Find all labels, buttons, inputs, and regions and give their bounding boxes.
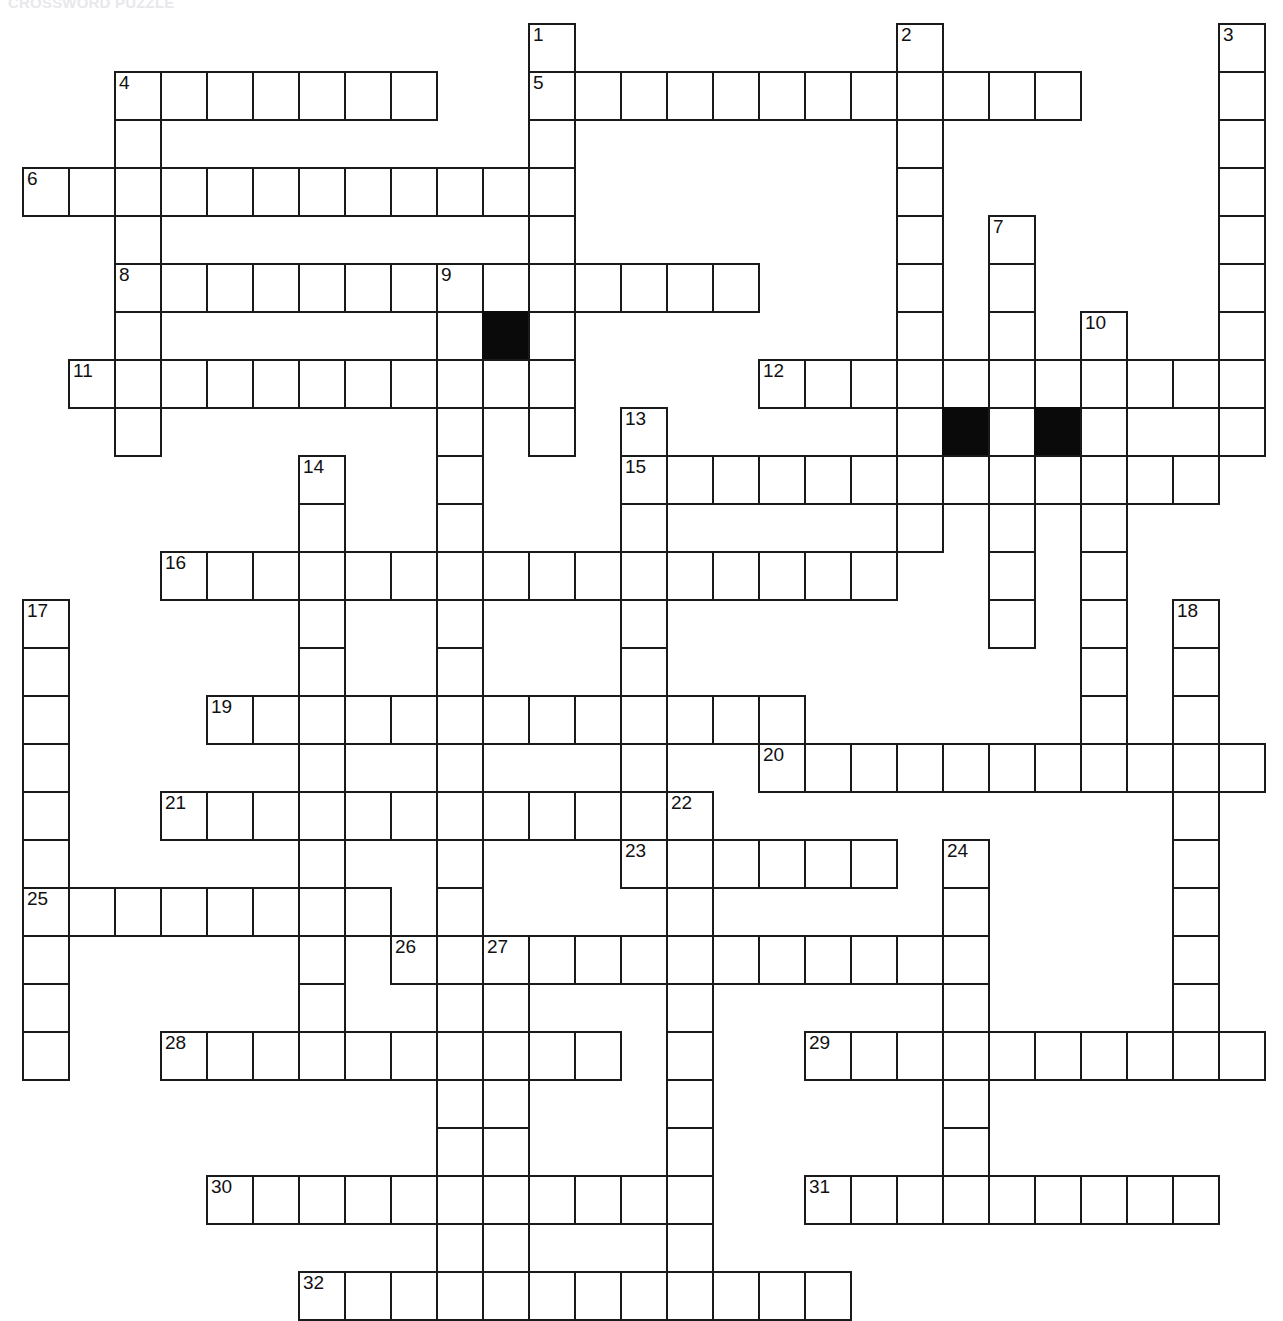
crossword-cell[interactable]: [252, 695, 300, 745]
crossword-cell[interactable]: 9: [436, 263, 484, 313]
crossword-cell[interactable]: [482, 1127, 530, 1177]
crossword-cell[interactable]: [988, 1031, 1036, 1081]
crossword-cell[interactable]: 30: [206, 1175, 254, 1225]
crossword-cell[interactable]: [1172, 743, 1220, 793]
crossword-cell[interactable]: [298, 1031, 346, 1081]
crossword-cell[interactable]: [252, 791, 300, 841]
crossword-cell[interactable]: [666, 1079, 714, 1129]
crossword-cell[interactable]: [1172, 935, 1220, 985]
crossword-cell[interactable]: [114, 887, 162, 937]
crossword-cell[interactable]: [298, 983, 346, 1033]
crossword-cell[interactable]: [344, 71, 392, 121]
crossword-cell[interactable]: [620, 695, 668, 745]
crossword-cell[interactable]: [896, 935, 944, 985]
crossword-cell[interactable]: [298, 695, 346, 745]
crossword-cell[interactable]: [482, 1223, 530, 1273]
crossword-cell[interactable]: [22, 983, 70, 1033]
crossword-cell[interactable]: [804, 71, 852, 121]
crossword-cell[interactable]: 29: [804, 1031, 852, 1081]
crossword-cell[interactable]: [666, 1175, 714, 1225]
crossword-cell[interactable]: [850, 455, 898, 505]
crossword-cell[interactable]: [114, 215, 162, 265]
crossword-cell[interactable]: [436, 743, 484, 793]
crossword-cell[interactable]: [436, 503, 484, 553]
crossword-cell[interactable]: [804, 935, 852, 985]
crossword-cell[interactable]: [1218, 359, 1266, 409]
crossword-cell[interactable]: [620, 743, 668, 793]
crossword-cell[interactable]: [252, 263, 300, 313]
crossword-cell[interactable]: [528, 1175, 576, 1225]
crossword-cell[interactable]: [390, 71, 438, 121]
crossword-cell[interactable]: [712, 455, 760, 505]
crossword-cell[interactable]: 19: [206, 695, 254, 745]
crossword-cell[interactable]: 17: [22, 599, 70, 649]
crossword-cell[interactable]: [1172, 983, 1220, 1033]
crossword-cell[interactable]: [850, 935, 898, 985]
crossword-cell[interactable]: [206, 71, 254, 121]
crossword-cell[interactable]: 22: [666, 791, 714, 841]
crossword-cell[interactable]: [666, 1271, 714, 1321]
crossword-cell[interactable]: [942, 1175, 990, 1225]
crossword-cell[interactable]: [1126, 1031, 1174, 1081]
crossword-cell[interactable]: [528, 311, 576, 361]
crossword-cell[interactable]: [528, 359, 576, 409]
crossword-cell[interactable]: [666, 1031, 714, 1081]
crossword-cell[interactable]: [1218, 119, 1266, 169]
crossword-cell[interactable]: [390, 551, 438, 601]
crossword-cell[interactable]: [114, 407, 162, 457]
crossword-cell[interactable]: [206, 1031, 254, 1081]
crossword-cell[interactable]: [252, 359, 300, 409]
crossword-cell[interactable]: 32: [298, 1271, 346, 1321]
crossword-cell[interactable]: [68, 887, 116, 937]
crossword-cell[interactable]: [850, 71, 898, 121]
crossword-cell[interactable]: [1080, 743, 1128, 793]
crossword-cell[interactable]: [482, 551, 530, 601]
crossword-cell[interactable]: [206, 887, 254, 937]
crossword-cell[interactable]: [666, 1127, 714, 1177]
crossword-cell[interactable]: [528, 263, 576, 313]
crossword-cell[interactable]: [1080, 407, 1128, 457]
crossword-cell[interactable]: [574, 1031, 622, 1081]
crossword-cell[interactable]: 11: [68, 359, 116, 409]
crossword-cell[interactable]: [896, 263, 944, 313]
crossword-cell[interactable]: [850, 1175, 898, 1225]
crossword-cell[interactable]: [114, 311, 162, 361]
crossword-cell[interactable]: [482, 167, 530, 217]
crossword-cell[interactable]: [390, 1031, 438, 1081]
crossword-cell[interactable]: [712, 263, 760, 313]
crossword-cell[interactable]: [942, 1127, 990, 1177]
crossword-cell[interactable]: [160, 887, 208, 937]
crossword-cell[interactable]: [758, 695, 806, 745]
crossword-cell[interactable]: [1218, 407, 1266, 457]
crossword-cell[interactable]: [114, 167, 162, 217]
crossword-cell[interactable]: [206, 359, 254, 409]
crossword-cell[interactable]: [436, 791, 484, 841]
crossword-cell[interactable]: [22, 839, 70, 889]
crossword-cell[interactable]: [712, 935, 760, 985]
crossword-cell[interactable]: [620, 599, 668, 649]
crossword-cell[interactable]: [298, 839, 346, 889]
crossword-cell[interactable]: [1080, 1175, 1128, 1225]
crossword-cell[interactable]: [620, 791, 668, 841]
crossword-cell[interactable]: 18: [1172, 599, 1220, 649]
crossword-cell[interactable]: [298, 503, 346, 553]
crossword-cell[interactable]: [252, 1175, 300, 1225]
crossword-cell[interactable]: 20: [758, 743, 806, 793]
crossword-cell[interactable]: [1218, 1031, 1266, 1081]
crossword-cell[interactable]: [344, 887, 392, 937]
crossword-cell[interactable]: [850, 1031, 898, 1081]
crossword-cell[interactable]: [942, 1031, 990, 1081]
crossword-cell[interactable]: [942, 743, 990, 793]
crossword-cell[interactable]: [758, 455, 806, 505]
crossword-cell[interactable]: [1218, 71, 1266, 121]
crossword-cell[interactable]: 31: [804, 1175, 852, 1225]
crossword-cell[interactable]: [1080, 455, 1128, 505]
crossword-cell[interactable]: [344, 1031, 392, 1081]
crossword-cell[interactable]: [1172, 887, 1220, 937]
crossword-cell[interactable]: [298, 551, 346, 601]
crossword-cell[interactable]: [344, 1271, 392, 1321]
crossword-cell[interactable]: [620, 935, 668, 985]
crossword-cell[interactable]: [436, 983, 484, 1033]
crossword-cell[interactable]: [1218, 215, 1266, 265]
crossword-cell[interactable]: [1080, 503, 1128, 553]
